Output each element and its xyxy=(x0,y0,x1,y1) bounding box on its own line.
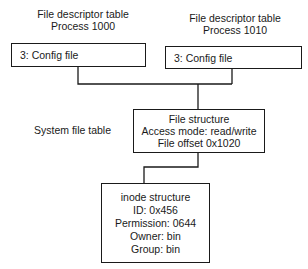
process-b-fd-entry: 3: Config file xyxy=(165,46,302,69)
inode-owner: Owner: bin xyxy=(130,230,181,243)
process-b-title: File descriptor table xyxy=(180,12,290,24)
process-a-fd-entry-text: 3: Config file xyxy=(20,49,78,61)
connector-to-inode xyxy=(144,152,198,183)
file-structure-box: File structure Access mode: read/write F… xyxy=(133,109,265,153)
process-b-subtitle: Process 1010 xyxy=(180,24,290,36)
process-a-fd-entry: 3: Config file xyxy=(11,43,146,67)
file-structure-offset: File offset 0x1020 xyxy=(158,137,241,149)
file-structure-title: File structure xyxy=(169,113,230,125)
process-b-heading: File descriptor table Process 1010 xyxy=(180,12,290,36)
file-structure-access-mode: Access mode: read/write xyxy=(142,125,257,137)
process-a-heading: File descriptor table Process 1000 xyxy=(28,8,138,32)
inode-structure-box: inode structure ID: 0x456 Permission: 06… xyxy=(101,183,210,263)
inode-group: Group: bin xyxy=(131,243,180,256)
inode-permission: Permission: 0644 xyxy=(115,217,196,230)
process-b-fd-entry-text: 3: Config file xyxy=(174,52,232,64)
inode-id: ID: 0x456 xyxy=(133,204,178,217)
inode-title: inode structure xyxy=(121,191,190,204)
process-a-subtitle: Process 1000 xyxy=(28,20,138,32)
system-file-table-label: System file table xyxy=(34,124,124,136)
process-a-title: File descriptor table xyxy=(28,8,138,20)
